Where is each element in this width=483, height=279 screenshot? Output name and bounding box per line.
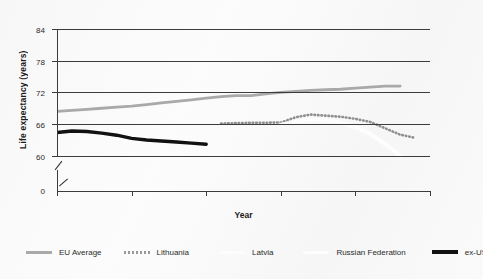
y-tick-78: 78 xyxy=(52,61,57,62)
series-line-russian-federation xyxy=(281,120,400,156)
series-line-eu-average xyxy=(57,86,400,111)
dotted-gray-line-icon xyxy=(124,247,150,257)
legend-label: Lithuania xyxy=(157,248,189,257)
x-tick-1975: 1975 xyxy=(132,191,133,196)
legend-item-eu-average[interactable]: EU Average xyxy=(26,247,102,257)
white-line-icon xyxy=(303,247,329,257)
gridline-66 xyxy=(57,124,430,125)
gridline-84 xyxy=(57,29,430,30)
gridline-60 xyxy=(57,156,430,157)
plot-area: 84 78 72 66 60 0 1970 1975 1980 1985 xyxy=(57,29,430,191)
gridline-78 xyxy=(57,61,430,62)
y-tick-60: 60 xyxy=(52,156,57,157)
y-tick-label-84: 84 xyxy=(36,26,45,35)
x-tick-1980: 1980 xyxy=(206,191,207,196)
y-tick-66: 66 xyxy=(52,124,57,125)
y-axis-line xyxy=(57,29,58,156)
chart-legend: EU AverageLithuaniaLatviaRussian Federat… xyxy=(26,243,466,261)
y-axis-line-lower xyxy=(57,170,58,191)
y-tick-label-78: 78 xyxy=(36,57,45,66)
y-tick-label-0: 0 xyxy=(41,187,45,196)
legend-label: Latvia xyxy=(252,248,273,257)
series-line-ex-ussr xyxy=(57,131,206,144)
legend-item-ex-ussr[interactable]: ex-USSR xyxy=(432,247,483,257)
bold-black-line-icon xyxy=(432,247,458,257)
white-line-icon xyxy=(219,247,245,257)
x-axis-title: Year xyxy=(57,210,430,220)
legend-item-lithuania[interactable]: Lithuania xyxy=(124,247,189,257)
data-series-layer xyxy=(57,29,430,191)
legend-label: ex-USSR xyxy=(465,248,483,257)
y-axis-title: Life expectancy (years) xyxy=(18,40,30,160)
legend-label: EU Average xyxy=(59,248,102,257)
x-tick-1990: 1990 xyxy=(355,191,356,196)
y-tick-label-66: 66 xyxy=(36,121,45,130)
x-axis-line xyxy=(57,191,430,192)
x-tick-1995: 1995 xyxy=(430,191,431,196)
solid-gray-line-icon xyxy=(26,247,52,257)
legend-item-russian-federation[interactable]: Russian Federation xyxy=(303,247,405,257)
gridline-72 xyxy=(57,92,430,93)
legend-label: Russian Federation xyxy=(336,248,405,257)
y-tick-84: 84 xyxy=(52,29,57,30)
y-tick-label-60: 60 xyxy=(36,152,45,161)
chart-figure: Life expectancy (years) 84 78 72 66 60 xyxy=(0,0,483,279)
y-tick-label-72: 72 xyxy=(36,89,45,98)
legend-item-latvia[interactable]: Latvia xyxy=(219,247,273,257)
y-tick-72: 72 xyxy=(52,92,57,93)
x-tick-1970: 1970 xyxy=(57,191,58,196)
x-tick-1985: 1985 xyxy=(281,191,282,196)
